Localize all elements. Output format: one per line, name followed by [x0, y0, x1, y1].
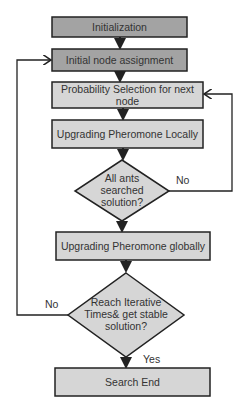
node-initialization: Initialization [52, 17, 187, 37]
decision-reach-line3: solution? [105, 320, 147, 332]
node-search-end: Search End [55, 368, 210, 396]
decision-reach-iterative: Reach Iterative Times& get stable soluti… [68, 273, 184, 357]
node-initial-assignment-label: Initial node assignment [66, 54, 173, 66]
node-initial-assignment: Initial node assignment [52, 49, 187, 71]
decision-all-ants-line2: searched [100, 184, 143, 196]
decision-reach-line2: Times& get stable [84, 308, 168, 320]
node-upgrade-global: Upgrading Pheromone globally [56, 232, 210, 260]
node-search-end-label: Search End [105, 376, 160, 388]
node-initialization-label: Initialization [92, 21, 147, 33]
decision-all-ants: All ants searched solution? [75, 160, 169, 221]
edge-label-decision2-yes: Yes [143, 353, 160, 365]
decision-all-ants-line1: All ants [105, 172, 139, 184]
decision-reach-line1: Reach Iterative [91, 296, 162, 308]
node-probability-selection: Probability Selection for next node [52, 82, 203, 108]
edge-label-decision2-no: No [45, 298, 59, 310]
node-upgrade-local-label: Upgrading Pheromone Locally [57, 128, 199, 140]
node-upgrade-global-label: Upgrading Pheromone globally [61, 240, 206, 252]
node-upgrade-local: Upgrading Pheromone Locally [52, 120, 203, 148]
flowchart: Initialization Initial node assignment P… [0, 0, 246, 411]
edge-label-decision1-no: No [176, 174, 190, 186]
decision-all-ants-line3: solution? [101, 196, 143, 208]
node-probability-line2: node [116, 95, 140, 107]
node-probability-line1: Probability Selection for next [61, 83, 194, 95]
